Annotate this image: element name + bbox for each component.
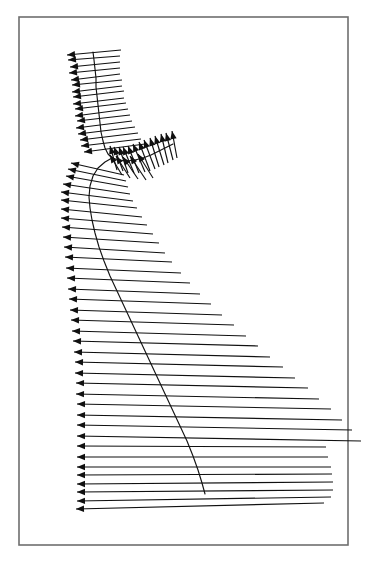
plot-frame-border xyxy=(19,17,348,545)
quiver-plot-canvas xyxy=(0,0,367,562)
figure-root xyxy=(0,0,367,562)
